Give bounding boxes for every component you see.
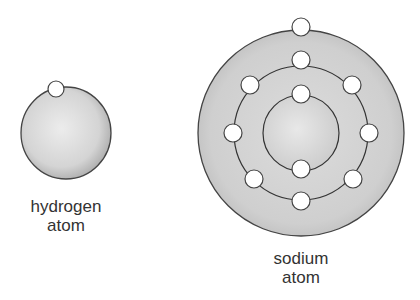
hydrogen-label-line2: atom bbox=[16, 216, 116, 235]
sodium-label: sodium atom bbox=[251, 249, 351, 287]
hydrogen-label: hydrogen atom bbox=[16, 197, 116, 235]
electron bbox=[48, 81, 64, 97]
sodium-label-line1: sodium bbox=[251, 249, 351, 268]
sodium-atom bbox=[198, 18, 404, 236]
hydrogen-atom bbox=[21, 81, 111, 179]
atom-illustration bbox=[0, 0, 420, 300]
hydrogen-label-line1: hydrogen bbox=[16, 197, 116, 216]
sodium-label-line2: atom bbox=[251, 268, 351, 287]
atom-diagram: hydrogen atom sodium atom bbox=[0, 0, 420, 300]
